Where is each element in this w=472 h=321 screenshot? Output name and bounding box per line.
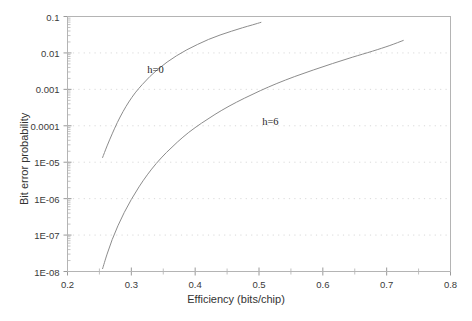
x-tick-label: 0.6	[316, 279, 329, 290]
series-paths-group	[103, 22, 404, 268]
y-tick-label: 0.01	[0, 47, 60, 58]
minor-ticks-group	[68, 18, 419, 274]
y-tick-label: 1E-07	[0, 230, 60, 241]
y-axis-title: Bit error probability	[18, 113, 30, 205]
chart-figure: 0.10.010.0010.00011E-051E-061E-071E-08 0…	[0, 0, 472, 321]
x-axis-title: Efficiency (bits/chip)	[0, 293, 472, 305]
series-label-h0: h=0	[147, 64, 163, 75]
x-tick-label: 0.4	[189, 279, 202, 290]
x-tick-label: 0.3	[125, 279, 138, 290]
y-tick-label: 0.001	[0, 84, 60, 95]
y-tick-label: 1E-08	[0, 266, 60, 277]
series-line-h0	[103, 22, 261, 157]
x-tick-label: 0.2	[61, 279, 74, 290]
x-tick-label: 0.7	[380, 279, 393, 290]
gridlines-group	[68, 53, 451, 272]
y-tick-label: 0.1	[0, 11, 60, 22]
x-tick-label: 0.8	[444, 279, 457, 290]
x-tick-label: 0.5	[252, 279, 265, 290]
plot-canvas	[0, 0, 472, 321]
series-label-h6: h=6	[262, 116, 278, 127]
axis-lines-group	[68, 17, 451, 272]
major-ticks-group	[64, 17, 451, 276]
